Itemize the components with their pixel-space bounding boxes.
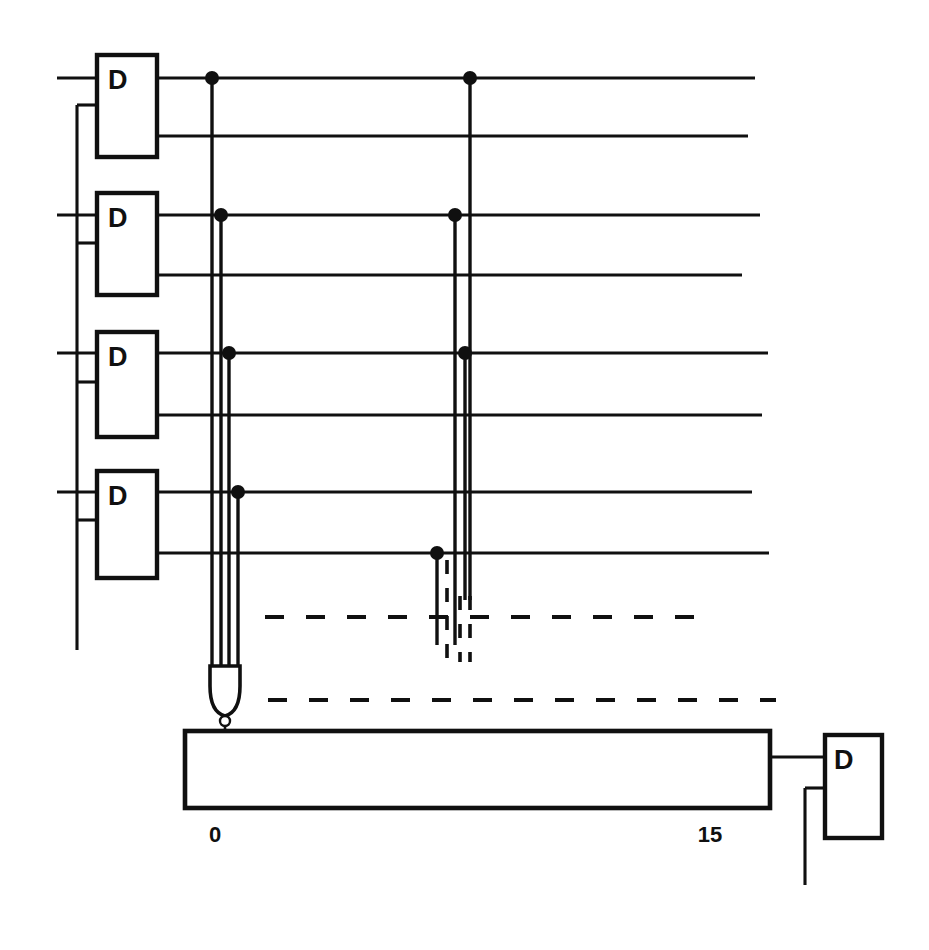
flip-flop-1-label: D bbox=[108, 65, 128, 95]
junction-dot-r2 bbox=[448, 208, 462, 222]
decoder-label-max: 15 bbox=[698, 822, 722, 847]
decoder-label-min: 0 bbox=[209, 822, 221, 847]
flip-flop-2-label: D bbox=[108, 203, 128, 233]
junction-dot-l2 bbox=[214, 208, 228, 222]
junction-dot-l3 bbox=[222, 346, 236, 360]
decoder-body[interactable] bbox=[185, 731, 770, 808]
junction-dot-r3 bbox=[458, 346, 472, 360]
flip-flop-2[interactable]: D bbox=[97, 193, 157, 295]
junction-dot-l4 bbox=[231, 485, 245, 499]
flip-flop-out[interactable]: D bbox=[825, 735, 882, 838]
and-gate-body[interactable] bbox=[210, 666, 240, 716]
flip-flop-3[interactable]: D bbox=[97, 332, 157, 437]
flip-flop-out-label: D bbox=[834, 745, 854, 775]
and-gate-inverting-bubble bbox=[220, 716, 230, 726]
flip-flop-1[interactable]: D bbox=[97, 55, 157, 157]
circuit-diagram: D D D D 0 15 bbox=[0, 0, 929, 950]
flip-flop-4[interactable]: D bbox=[97, 471, 157, 578]
junction-dot-r4 bbox=[430, 546, 444, 560]
flip-flop-4-label: D bbox=[108, 481, 128, 511]
diagram-canvas: D D D D 0 15 bbox=[0, 0, 929, 950]
junction-dot-l1 bbox=[205, 71, 219, 85]
flip-flop-3-label: D bbox=[108, 342, 128, 372]
junction-dot-r1 bbox=[463, 71, 477, 85]
